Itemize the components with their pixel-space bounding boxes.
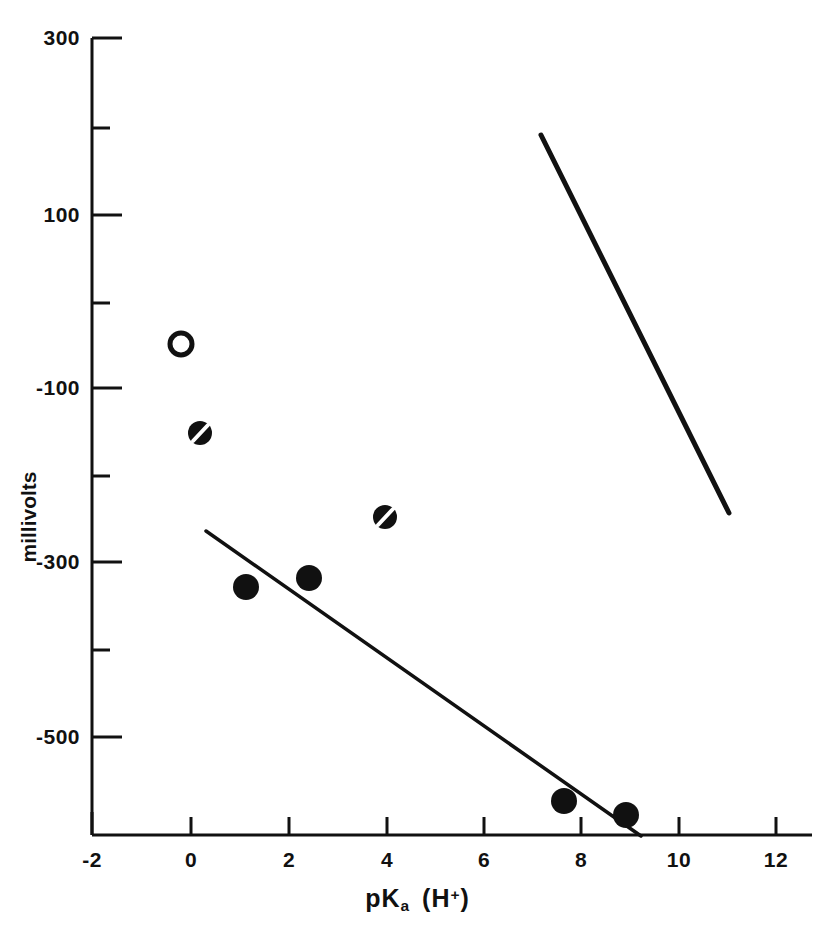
- x-axis-title-paren-open: (H: [422, 884, 450, 912]
- data-point-open-circle: [170, 333, 192, 355]
- x-tick-label-10: 10: [667, 848, 691, 872]
- chart-figure: 300 100 -100 -300 -500 -2 0 2 4 6 8 10 1…: [0, 0, 835, 934]
- x-axis-title-subscript: a: [400, 897, 410, 914]
- y-tick-label-minus500: -500: [8, 725, 80, 749]
- reference-line: [541, 135, 729, 513]
- data-point-filled-circle: [613, 802, 639, 828]
- x-axis-title-superscript: +: [450, 886, 460, 903]
- x-tick-label-2: 2: [283, 848, 295, 872]
- data-point-half-filled-circle: [373, 505, 397, 529]
- y-tick-label-300: 300: [8, 26, 80, 50]
- caption-remnant: [60, 918, 775, 932]
- y-axis-major-ticks: [92, 38, 122, 737]
- y-tick-label-minus100: -100: [8, 376, 80, 400]
- x-tick-label-0: 0: [185, 848, 197, 872]
- data-point-filled-circle: [233, 574, 259, 600]
- x-tick-label-8: 8: [575, 848, 587, 872]
- data-point-filled-circle: [296, 565, 322, 591]
- x-axis-title-base: pK: [365, 884, 400, 912]
- x-axis-ticks: [92, 812, 776, 835]
- y-axis-title: millivolts: [17, 442, 41, 592]
- y-tick-label-100: 100: [8, 203, 80, 227]
- data-point-filled-circle: [551, 788, 577, 814]
- plot-canvas: [0, 0, 835, 934]
- x-tick-label-4: 4: [381, 848, 393, 872]
- x-axis-title: pKa(H+): [0, 884, 835, 915]
- x-tick-label-12: 12: [764, 848, 788, 872]
- x-axis-title-paren-close: ): [461, 884, 470, 912]
- regression-line: [206, 531, 641, 836]
- x-tick-label-minus2: -2: [82, 848, 102, 872]
- x-tick-label-6: 6: [478, 848, 490, 872]
- data-point-half-filled-circle: [188, 421, 212, 445]
